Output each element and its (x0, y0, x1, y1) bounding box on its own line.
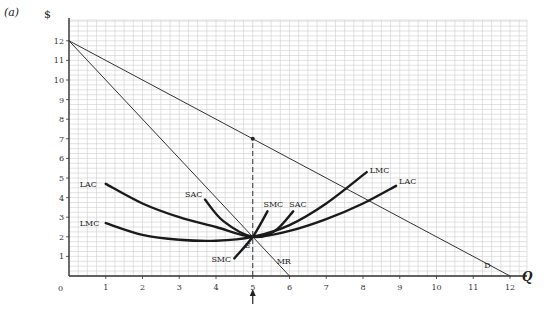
label-lac-left: LAC (80, 180, 97, 189)
y-tick-label: 11 (54, 56, 64, 65)
label-d: D (484, 261, 490, 270)
origin-label: 0 (58, 284, 63, 293)
x-tick-label: 1 (103, 283, 108, 292)
label-smc-bottom: SMC (211, 255, 231, 264)
y-tick-label: 4 (59, 194, 64, 203)
label-e: E (244, 241, 251, 250)
y-tick-label: 10 (54, 76, 64, 85)
label-sac-left: SAC (185, 190, 202, 199)
y-axis-title: $ (44, 8, 51, 21)
y-tick-label: 9 (59, 96, 64, 105)
labels: LACLMCSACSACSMCSMCLMCLACMRDE (80, 166, 491, 270)
label-lmc-left: LMC (80, 219, 100, 228)
y-tick-label: 8 (59, 115, 64, 124)
x-tick-label: 12 (505, 283, 515, 292)
x-tick-label: 11 (468, 283, 478, 292)
x-tick-label: 8 (360, 283, 365, 292)
panel-label: (a) (4, 6, 19, 19)
x-tick-label: 9 (397, 283, 402, 292)
x-tick-label: 6 (287, 283, 292, 292)
cost-curves-chart: 123456789101112123456789101112 LACLMCSAC… (0, 0, 546, 311)
label-sac-right: SAC (289, 200, 306, 209)
y-tick-label: 5 (59, 174, 64, 183)
label-smc-top: SMC (263, 200, 283, 209)
y-tick-label: 7 (59, 135, 64, 144)
demand-point-dot (251, 137, 255, 141)
y-tick-label: 1 (59, 252, 64, 261)
label-lmc-right: LMC (370, 166, 390, 175)
axes: 123456789101112123456789101112 (54, 18, 527, 292)
y-tick-label: 12 (54, 37, 64, 46)
y-tick-label: 3 (59, 213, 64, 222)
label-lac-right: LAC (399, 177, 416, 186)
x-tick-label: 2 (140, 283, 145, 292)
y-tick-label: 2 (59, 233, 64, 242)
x-tick-label: 4 (213, 283, 218, 292)
x-tick-label: 3 (177, 283, 182, 292)
label-mr: MR (277, 257, 292, 266)
x-axis-title: Q (522, 270, 533, 284)
grid (69, 20, 527, 276)
x-tick-label: 10 (431, 283, 441, 292)
x-tick-label: 7 (324, 283, 329, 292)
y-tick-label: 6 (59, 154, 64, 163)
